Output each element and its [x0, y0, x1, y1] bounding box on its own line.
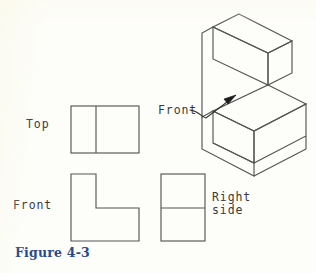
figure-caption: Figure 4-3 — [15, 245, 90, 260]
technical-drawing-canvas — [0, 0, 316, 273]
top-view-label: Top — [26, 118, 49, 131]
isometric-front-face-label: Front — [158, 104, 197, 117]
right-side-view-label: Rightside — [212, 191, 251, 217]
front-view-drawing — [71, 174, 139, 241]
iso-bottom-right-edge — [254, 149, 306, 176]
top-view-drawing — [71, 106, 139, 153]
right-side-view-drawing — [161, 174, 205, 241]
iso-lower-right-face — [254, 104, 306, 163]
iso-bottom-left-edge — [202, 117, 254, 176]
right-side-label-line2: side — [212, 203, 243, 217]
iso-upper-right-face — [268, 41, 292, 85]
front-view-label: Front — [13, 199, 52, 212]
iso-step-top-face — [213, 85, 306, 131]
iso-bottom-front-edge — [213, 143, 254, 163]
front-view-l-outline — [71, 174, 139, 241]
top-view-outline — [71, 106, 139, 153]
isometric-view-drawing — [202, 14, 306, 176]
figure-4-3: Top Front Rightside Front Figure 4-3 — [0, 0, 316, 273]
right-side-label-line1: Right — [212, 190, 251, 204]
iso-lower-front-face — [213, 111, 254, 163]
iso-upper-front-face — [213, 27, 268, 85]
iso-left-riser-outline — [202, 27, 213, 117]
